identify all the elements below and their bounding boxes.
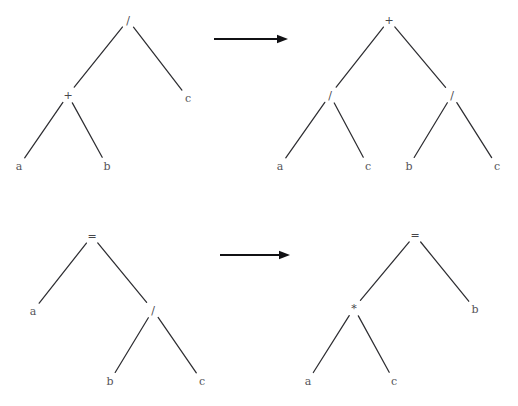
expression-tree-figure: /+cab+//acbc=a/bc=*bac [0, 0, 518, 406]
transformation-arrows-layer [0, 0, 518, 406]
transformation-arrow-head [279, 251, 290, 259]
transformation-arrow-head [277, 35, 288, 43]
